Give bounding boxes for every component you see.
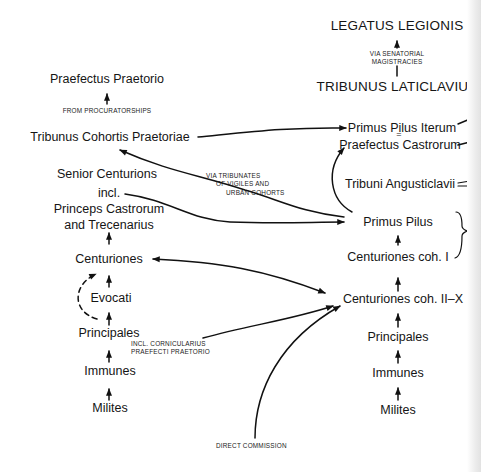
node-evocati: Evocati [91,291,132,305]
node-milites-right: Milites [380,403,415,417]
node-centuriones-coh-ii-x: Centuriones coh. II–X [343,292,463,306]
node-immunes-right: Immunes [372,366,423,380]
note-via-senatorial: VIA SENATORIAL [370,50,424,58]
node-incl: incl. [98,186,120,200]
connector-layer [0,0,481,472]
node-legatus-legionis: LEGATUS LEGIONIS [331,19,464,33]
arrow-direct-commission [255,306,340,438]
note-via-tribunates: VIA TRIBUNATES [206,172,260,180]
career-diagram: LEGATUS LEGIONIS VIA SENATORIAL MAGISTRA… [0,0,481,472]
note-urban-cohorts: URBAN COHORTS [226,189,285,197]
node-praefectus-castrorum: Praefectus Castrorum [339,138,461,152]
node-principales: Principales [78,326,139,340]
note-from-procuratorships: FROM PROCURATORSHIPS [63,107,152,115]
node-tribunus-laticlavius: TRIBUNUS LATICLAVIUS [316,80,477,94]
note-incl-cornicularius: INCL. CORNICULARIUS [131,340,206,348]
node-and-trecenarius: and Trecenarius [64,218,154,232]
node-primus-pilus: Primus Pilus [363,215,432,229]
node-centuriones: Centuriones [75,252,142,266]
node-tribunus-cohortis-praetoriae: Tribunus Cohortis Praetoriae [30,130,189,144]
node-milites: Milites [92,401,127,415]
node-primus-pilus-iterum: Primus Pilus Iterum [348,121,456,135]
note-of-vigiles: OF VIGILES AND [216,180,269,188]
node-centuriones-coh-i: Centuriones coh. I [347,250,448,264]
arrow-principales-to-coh [203,306,333,338]
node-tribuni-angusticlavii: Tribuni Angusticlavii [345,177,455,191]
node-principales-right: Principales [367,330,428,344]
node-senior-centurions: Senior Centurions [57,167,157,181]
page-edge-shadow [467,0,481,472]
node-immunes: Immunes [84,364,135,378]
note-magistracies: MAGISTRACIES [372,58,423,66]
arrow-centuriones-bidirectional [153,259,325,293]
node-praefectus-praetorio: Praefectus Praetorio [50,72,164,86]
node-princeps-castrorum: Princeps Castrorum [54,202,164,216]
arrow-tcp-to-ppi [198,128,346,137]
note-praefecti-praetorio: PRAEFECTI PRAETORIO [131,348,210,356]
note-direct-commission: DIRECT COMMISSION [216,442,287,450]
